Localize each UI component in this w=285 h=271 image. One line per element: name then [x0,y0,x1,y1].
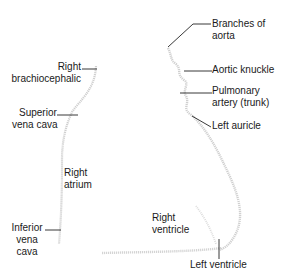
label-line: vena [8,234,46,246]
label-line: Aortic knuckle [212,64,274,76]
label-line: Right [8,61,81,73]
label-superior-vena-cava: Superior vena cava [12,107,58,131]
label-line: Left ventricle [190,259,247,271]
label-line: Inferior [8,222,46,234]
right-heart-border [59,66,96,244]
label-pulmonary-artery: Pulmonary artery (trunk) [212,85,269,109]
label-aortic-knuckle: Aortic knuckle [212,64,274,76]
leader-branches-of-aorta [168,24,211,47]
diaphragm-border [102,248,222,253]
label-line: Pulmonary [212,85,269,97]
label-line: Right [152,212,189,224]
label-line: Left auricle [212,120,261,132]
label-branches-of-aorta: Branches of aorta [212,18,265,42]
label-line: cava [8,246,46,258]
label-line: aorta [212,30,265,42]
label-line: Branches of [212,18,265,30]
label-line: atrium [64,179,92,191]
label-line: Superior [12,107,58,119]
label-line: artery (trunk) [212,97,269,109]
label-left-auricle: Left auricle [212,120,261,132]
label-right-atrium: Right atrium [64,167,92,191]
label-line: ventricle [152,224,189,236]
label-right-ventricle: Right ventricle [152,212,189,236]
label-line: Right [64,167,92,179]
label-right-brachiocephalic: Right brachiocephalic [8,61,81,85]
label-inferior-vena-cava: Inferior vena cava [8,222,46,258]
right-ventricle-border [196,206,216,244]
label-left-ventricle: Left ventricle [190,259,247,271]
label-line: brachiocephalic [8,73,81,85]
label-line: vena cava [12,119,58,131]
leader-left-auricle [192,116,211,127]
